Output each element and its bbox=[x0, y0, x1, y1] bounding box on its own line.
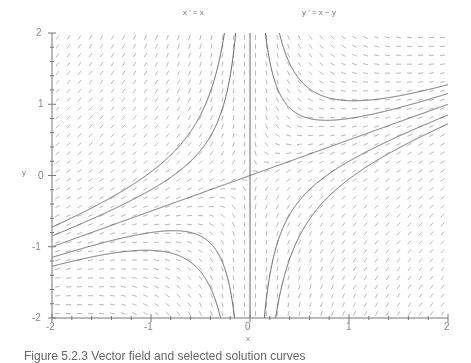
figure-caption: Figure 5.2.3 Vector field and selected s… bbox=[24, 349, 306, 363]
y-tick-1: 1 bbox=[38, 98, 44, 109]
y-axis-label: y bbox=[22, 168, 26, 177]
y-tick-neg2: -2 bbox=[32, 312, 41, 323]
equation-y: y ' = x − y bbox=[302, 8, 336, 17]
x-tick-neg2: -2 bbox=[46, 321, 55, 332]
y-tick-neg1: -1 bbox=[32, 241, 41, 252]
y-tick-2: 2 bbox=[36, 27, 42, 38]
x-tick-neg1: -1 bbox=[144, 321, 153, 332]
x-axis-label: x bbox=[246, 334, 250, 343]
y-tick-0: 0 bbox=[38, 170, 44, 181]
x-tick-1: 1 bbox=[346, 321, 352, 332]
x-tick-2: 2 bbox=[444, 321, 450, 332]
equation-x: x ' = x bbox=[183, 8, 204, 17]
x-tick-0: 0 bbox=[245, 321, 251, 332]
